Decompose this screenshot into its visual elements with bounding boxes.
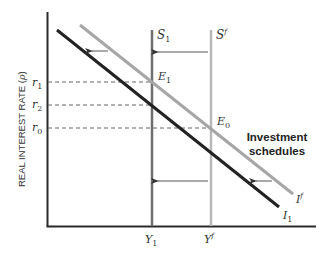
annotation-schedules: schedules: [249, 145, 305, 157]
tick-r0: r0: [32, 121, 42, 136]
tick-r1: r1: [32, 76, 42, 91]
annotation-investment: Investment: [247, 131, 308, 143]
tick-y1: Y1: [145, 233, 157, 248]
label-e0: E0: [216, 115, 230, 130]
label-sf: Sf: [216, 28, 228, 42]
label-e1: E1: [157, 70, 171, 85]
tick-yf: Yf: [204, 232, 215, 246]
tick-r2: r2: [32, 98, 42, 113]
label-if: If: [295, 192, 304, 206]
label-s1: S1: [157, 28, 170, 44]
label-i1: I1: [282, 209, 292, 224]
if-line: [80, 25, 293, 194]
i1-line: [57, 30, 279, 207]
saving-investment-diagram: REAL INTEREST RATE (ρ) r1 r2 r0 Y1 Yf S1…: [0, 0, 330, 254]
y-axis-title: REAL INTEREST RATE (ρ): [16, 71, 27, 187]
